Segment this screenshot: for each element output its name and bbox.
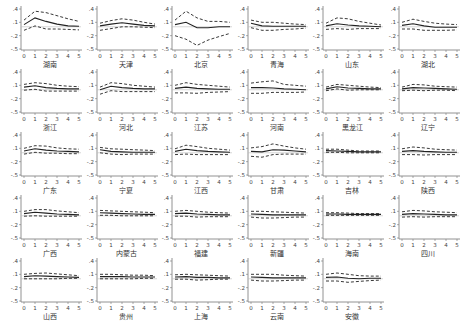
y-tick-label: -.5: [238, 109, 246, 115]
upper-band-line: [24, 273, 79, 276]
y-tick-label: -.2: [162, 159, 169, 165]
irf-panel: .4.1-.2-.5012345青海: [227, 5, 303, 68]
y-tick-label: -.2: [389, 222, 396, 228]
y-tick-label: .1: [315, 19, 320, 25]
irf-panel: .4.1-.2-.5012345陕西: [378, 131, 454, 194]
upper-band-line: [251, 144, 306, 149]
panel-title: 云南: [247, 311, 307, 321]
y-tick-label: .1: [164, 208, 169, 214]
irf-panel: .4.1-.2-.5012345贵州: [76, 257, 152, 320]
y-tick-label: -.5: [313, 46, 321, 52]
y-tick-label: .1: [164, 82, 169, 88]
y-tick-label: .4: [164, 258, 170, 264]
y-tick-label: .1: [240, 208, 245, 214]
y-tick-label: .4: [315, 69, 321, 75]
y-tick-label: -.2: [11, 222, 18, 228]
y-tick-label: .4: [164, 132, 170, 138]
irf-line: [251, 150, 306, 152]
y-tick-label: -.5: [162, 235, 170, 241]
y-tick-label: .4: [240, 69, 246, 75]
lower-band-line: [251, 280, 306, 281]
upper-band-line: [402, 147, 457, 150]
irf-panel: .4.1-.2-.5012345湖北: [378, 5, 454, 68]
panel-title: 山西: [20, 311, 80, 321]
irf-panel: .4.1-.2-.5012345浙江: [0, 68, 76, 131]
y-tick-label: -.5: [389, 109, 397, 115]
lower-band-line: [326, 280, 381, 282]
y-tick-label: .4: [391, 132, 397, 138]
y-tick-label: .4: [240, 132, 246, 138]
irf-panel: .4.1-.2-.5012345甘肃: [227, 131, 303, 194]
y-tick-label: -.2: [11, 285, 18, 291]
irf-line: [251, 88, 306, 90]
upper-band-line: [326, 273, 381, 276]
y-tick-label: -.2: [238, 285, 245, 291]
y-tick-label: .1: [13, 82, 18, 88]
irf-panel: .4.1-.2-.5012345云南: [227, 257, 303, 320]
y-tick-label: .1: [315, 145, 320, 151]
upper-band-line: [100, 147, 155, 150]
y-tick-label: -.5: [238, 172, 246, 178]
irf-panel: .4.1-.2-.5012345上海: [151, 257, 227, 320]
y-tick-label: .1: [240, 271, 245, 277]
y-tick-label: -.2: [313, 96, 320, 102]
irf-line: [251, 214, 306, 215]
y-tick-label: -.5: [389, 172, 397, 178]
y-tick-label: -.5: [87, 298, 95, 304]
y-tick-label: -.2: [87, 159, 94, 165]
y-tick-label: -.2: [162, 285, 169, 291]
irf-panel: .4.1-.2-.5012345辽宁: [378, 68, 454, 131]
y-tick-label: -.5: [313, 298, 321, 304]
irf-panel: .4.1-.2-.5012345天津: [76, 5, 152, 68]
y-tick-label: .4: [240, 6, 246, 12]
irf-panel: .4.1-.2-.5012345福建: [151, 194, 227, 257]
upper-band-line: [24, 146, 79, 150]
y-tick-label: .1: [13, 271, 18, 277]
y-tick-label: -.5: [238, 298, 246, 304]
irf-panel: .4.1-.2-.5012345广东: [0, 131, 76, 194]
irf-line: [100, 213, 155, 215]
lower-band-line: [251, 154, 306, 157]
y-tick-label: -.5: [11, 46, 19, 52]
lower-band-line: [175, 33, 230, 45]
irf-panel: .4.1-.2-.5012345海南: [302, 194, 378, 257]
y-tick-label: .1: [164, 145, 169, 151]
y-tick-label: .4: [13, 195, 19, 201]
lower-band-line: [402, 90, 457, 91]
upper-band-line: [100, 83, 155, 87]
y-tick-label: .1: [391, 82, 396, 88]
lower-band-line: [326, 29, 381, 30]
y-tick-label: .4: [315, 6, 321, 12]
y-tick-label: .4: [89, 69, 95, 75]
lower-band-line: [175, 279, 230, 280]
y-tick-label: -.2: [87, 96, 94, 102]
y-tick-label: -.5: [162, 46, 170, 52]
y-tick-label: .4: [89, 6, 95, 12]
y-tick-label: -.2: [162, 222, 169, 228]
y-tick-label: -.2: [162, 96, 169, 102]
y-tick-label: .1: [13, 19, 18, 25]
y-tick-label: -.2: [389, 33, 396, 39]
y-tick-label: -.5: [238, 46, 246, 52]
y-tick-label: -.5: [87, 109, 95, 115]
irf-panel: .4.1-.2-.5012345宁夏: [76, 131, 152, 194]
y-tick-label: -.2: [87, 222, 94, 228]
y-tick-label: -.2: [313, 159, 320, 165]
y-tick-label: .1: [89, 19, 94, 25]
irf-panel: .4.1-.2-.5012345北京: [151, 5, 227, 68]
lower-band-line: [251, 28, 306, 31]
lower-band-line: [402, 29, 457, 30]
irf-panel: .4.1-.2-.5012345湖南: [0, 5, 76, 68]
y-tick-label: .1: [391, 145, 396, 151]
y-tick-label: .4: [164, 69, 170, 75]
y-tick-label: -.5: [162, 298, 170, 304]
y-tick-label: .4: [89, 258, 95, 264]
irf-line: [24, 276, 79, 278]
y-tick-label: -.2: [313, 222, 320, 228]
y-tick-label: -.2: [238, 33, 245, 39]
irf-panel: .4.1-.2-.5012345新疆: [227, 194, 303, 257]
y-tick-label: .4: [315, 258, 321, 264]
y-tick-label: .1: [13, 145, 18, 151]
y-tick-label: .4: [391, 195, 397, 201]
irf-panel: .4.1-.2-.5012345山西: [0, 257, 76, 320]
